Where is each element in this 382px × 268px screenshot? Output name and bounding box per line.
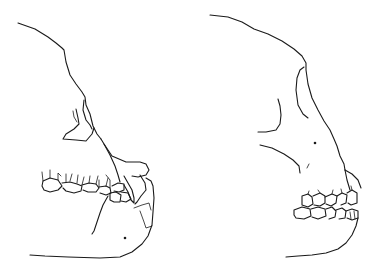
right-skull bbox=[210, 15, 361, 257]
skull-drawings bbox=[0, 0, 382, 268]
left-skull bbox=[18, 23, 154, 258]
figure-canvas bbox=[0, 0, 382, 268]
